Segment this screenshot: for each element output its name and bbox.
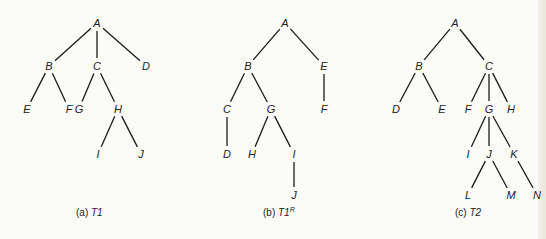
caption-c: (c) T2 (455, 207, 482, 218)
tree-a: ABCDEFGHIJ(a) T1 (23, 17, 150, 218)
caption-b: (b) T1R (263, 206, 295, 218)
node-J: J (137, 148, 144, 160)
edge-B-E (423, 73, 438, 102)
node-F: F (465, 103, 473, 115)
node-M: M (506, 189, 516, 201)
node-A: A (450, 17, 458, 29)
edge-B-F (52, 73, 65, 101)
node-I: I (292, 148, 295, 160)
edge-C-H (493, 73, 508, 102)
node-H: H (248, 148, 256, 160)
tree-b: ABECGFDHIJ(b) T1R (223, 17, 329, 218)
node-J: J (290, 189, 297, 201)
edge-A-B (253, 29, 280, 60)
edge-H-I (101, 116, 115, 146)
edge-G-H (255, 116, 268, 146)
node-E: E (438, 103, 446, 115)
node-D: D (223, 148, 231, 160)
edge-G-I (471, 116, 485, 147)
node-C: C (485, 60, 493, 72)
node-I: I (96, 148, 99, 160)
edge-K-N (518, 161, 533, 188)
edge-A-B (55, 28, 91, 60)
tree-c: ABCDEFGHIJKLMN(c) T2 (392, 17, 541, 218)
node-G: G (75, 103, 84, 115)
node-F: F (66, 103, 74, 115)
edge-B-G (252, 73, 267, 102)
node-E: E (23, 103, 31, 115)
caption-a: (a) T1 (76, 207, 103, 218)
node-L: L (465, 189, 471, 201)
tree-figure: ABCDEFGHIJ(a) T1ABECGFDHIJ(b) T1RABCDEFG… (0, 0, 546, 239)
edge-J-M (493, 161, 507, 188)
node-B: B (415, 60, 422, 72)
node-D: D (392, 103, 400, 115)
node-C: C (223, 103, 231, 115)
edge-B-D (400, 73, 415, 102)
node-A: A (280, 17, 288, 29)
node-C: C (93, 60, 101, 72)
node-E: E (320, 60, 328, 72)
edge-G-I (275, 116, 291, 147)
edge-H-J (122, 116, 138, 147)
node-N: N (533, 189, 541, 201)
edge-C-F (472, 73, 486, 102)
node-H: H (114, 103, 122, 115)
edge-C-H (101, 73, 115, 102)
edge-B-E (31, 73, 46, 102)
node-F: F (321, 103, 329, 115)
node-B: B (244, 60, 251, 72)
node-H: H (507, 103, 515, 115)
node-G: G (267, 103, 276, 115)
edge-B-C (231, 73, 245, 102)
node-I: I (466, 148, 469, 160)
edge-J-L (472, 161, 486, 188)
node-K: K (510, 148, 518, 160)
edge-A-D (103, 28, 140, 60)
edge-C-G (82, 73, 94, 101)
node-D: D (142, 60, 150, 72)
node-A: A (92, 17, 100, 29)
node-B: B (45, 60, 52, 72)
edge-G-K (493, 116, 510, 147)
node-J: J (485, 148, 492, 160)
edge-A-B (424, 29, 450, 60)
edge-A-C (460, 29, 484, 59)
edge-A-E (290, 29, 318, 60)
node-G: G (485, 103, 494, 115)
